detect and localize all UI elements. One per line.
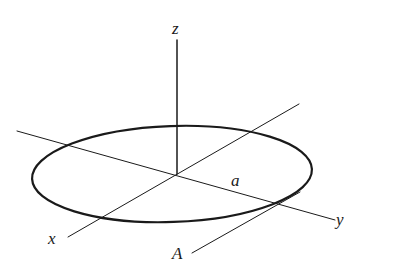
z-axis-label: z xyxy=(172,20,179,37)
radius-label: a xyxy=(231,172,240,189)
y-axis-label: y xyxy=(336,211,344,228)
coordinate-diagram-svg xyxy=(0,0,395,274)
a-axis-label: A xyxy=(172,245,182,262)
x-axis-label: x xyxy=(48,230,56,247)
figure-container: z y x a A xyxy=(0,0,395,274)
a-axis-line xyxy=(192,192,300,253)
